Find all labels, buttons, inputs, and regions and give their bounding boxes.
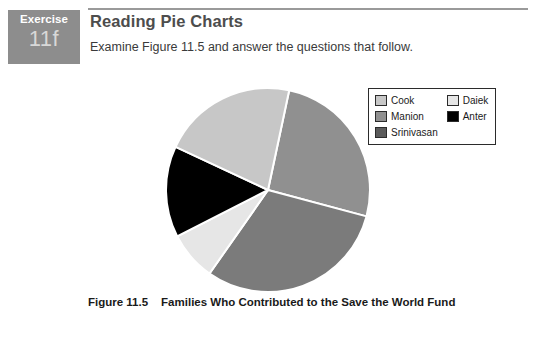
legend-swatch-icon: [447, 95, 459, 106]
legend-item: Daiek: [447, 94, 489, 107]
legend-swatch-icon: [447, 111, 459, 122]
footer-ghost-text: [120, 330, 450, 340]
legend-swatch-icon: [375, 95, 387, 106]
exercise-badge-number: 11f: [29, 27, 59, 51]
pie-chart: [164, 86, 372, 294]
figure-number: Figure 11.5: [88, 296, 148, 308]
legend-item: Manion: [375, 110, 438, 123]
chart-legend: Cook Manion Srinivasan Daiek Anter: [368, 88, 496, 145]
legend-column-left: Cook Manion Srinivasan: [375, 94, 438, 139]
legend-item-label: Srinivasan: [391, 127, 438, 138]
legend-item-label: Anter: [463, 111, 487, 122]
legend-item-label: Manion: [391, 111, 424, 122]
exercise-badge: Exercise 11f: [8, 10, 80, 64]
legend-item: Srinivasan: [375, 126, 438, 139]
page-title: Reading Pie Charts: [90, 12, 243, 31]
legend-item-label: Daiek: [463, 95, 489, 106]
header-divider: [88, 8, 528, 10]
legend-item: Cook: [375, 94, 438, 107]
figure-title: Families Who Contributed to the Save the…: [161, 296, 455, 308]
figure-caption: Figure 11.5Families Who Contributed to t…: [88, 296, 455, 308]
legend-item-label: Cook: [391, 95, 414, 106]
page-subtitle: Examine Figure 11.5 and answer the quest…: [90, 40, 413, 54]
exercise-badge-word: Exercise: [20, 13, 68, 26]
exercise-page: Exercise 11f Reading Pie Charts Examine …: [0, 0, 538, 341]
legend-swatch-icon: [375, 111, 387, 122]
legend-swatch-icon: [375, 127, 387, 138]
legend-item: Anter: [447, 110, 489, 123]
legend-column-right: Daiek Anter: [447, 94, 489, 139]
pie-chart-svg: [164, 86, 372, 294]
